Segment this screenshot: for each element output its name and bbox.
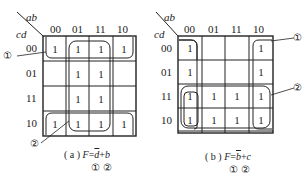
col-var-label: ab (164, 12, 175, 23)
cell-01-10 (112, 61, 136, 86)
cell-10-11: 1 (225, 108, 249, 132)
cell-11-01: 1 (66, 86, 90, 111)
cell-11-01: 1 (202, 84, 226, 108)
cell-11-11: 1 (89, 86, 113, 111)
cell-10-10: 1 (112, 111, 136, 136)
col-label-00: 00 (184, 24, 195, 35)
cell-00-00: 1 (43, 36, 67, 61)
cell-11-11: 1 (225, 84, 249, 108)
row-label-11: 11 (26, 93, 37, 104)
cell-11-00 (43, 86, 67, 111)
row-label-00: 00 (161, 43, 172, 54)
callout-2: ② (30, 138, 39, 149)
kmap-a: ab cd 00 01 11 10 00 01 11 10 1 1 1 1 1 … (0, 0, 154, 185)
cell-11-10: 1 (249, 84, 273, 108)
cell-01-11: 1 (89, 61, 113, 86)
cell-10-00: 1 (43, 111, 67, 136)
cell-00-01 (202, 36, 226, 60)
cell-00-01: 1 (66, 36, 90, 61)
cell-01-00 (43, 61, 67, 86)
col-label-11: 11 (95, 24, 106, 35)
caption-a: ( a ) F=d+b (64, 149, 110, 160)
cell-00-10: 1 (249, 36, 273, 60)
row-label-11: 11 (161, 91, 172, 102)
row-label-00: 00 (26, 43, 37, 54)
callout-1: ① (293, 32, 302, 43)
row-label-10: 10 (26, 118, 37, 129)
caption-markers-a: ① ② (91, 162, 112, 173)
cell-10-01: 1 (202, 108, 226, 132)
cell-00-11: 1 (89, 36, 113, 61)
cell-10-00: 1 (178, 108, 202, 132)
callout-1: ① (3, 50, 12, 61)
row-label-10: 10 (161, 115, 172, 126)
cell-10-01: 1 (66, 111, 90, 136)
row-var-label: cd (154, 29, 164, 40)
cell-00-11 (225, 36, 249, 60)
cell-01-00: 1 (178, 60, 202, 84)
cell-10-11: 1 (89, 111, 113, 136)
col-label-10: 10 (117, 24, 128, 35)
col-label-01: 01 (72, 24, 83, 35)
callout-2: ② (293, 82, 302, 93)
col-var-label: ab (26, 12, 37, 23)
cell-00-10: 1 (112, 36, 136, 61)
row-label-01: 01 (161, 67, 172, 78)
cell-00-00: 1 (178, 36, 202, 60)
cell-01-01 (202, 60, 226, 84)
cell-01-01: 1 (66, 61, 90, 86)
caption-markers-b: ① ② (229, 164, 250, 175)
cell-01-11 (225, 60, 249, 84)
col-label-01: 01 (208, 24, 219, 35)
cell-10-10: 1 (249, 108, 273, 132)
kmap-b: ab cd 00 01 11 10 00 01 11 10 1 1 1 1 1 … (154, 0, 308, 185)
row-var-label: cd (16, 29, 26, 40)
col-label-10: 10 (253, 24, 264, 35)
col-label-00: 00 (50, 24, 61, 35)
caption-b: ( b ) F=b+c (205, 151, 251, 162)
cell-11-10 (112, 86, 136, 111)
col-label-11: 11 (231, 24, 242, 35)
cell-11-00: 1 (178, 84, 202, 108)
cell-01-10: 1 (249, 60, 273, 84)
row-label-01: 01 (26, 68, 37, 79)
